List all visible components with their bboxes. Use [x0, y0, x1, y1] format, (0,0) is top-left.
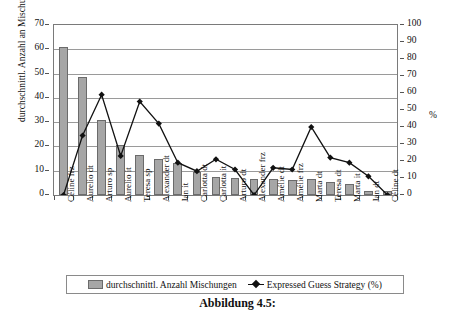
y-tick-left-70: 70	[15, 19, 49, 29]
x-label-4: Teresa sp	[143, 168, 152, 202]
figure-caption: Abbildung 4.5:	[0, 296, 475, 311]
line-marker-3	[118, 153, 124, 159]
figure-container: durchschnittl. Anzahl an Mischungen 0102…	[0, 0, 475, 315]
legend-item-line: Expressed Guess Strategy (%)	[248, 280, 382, 290]
tick-mark	[400, 41, 404, 42]
x-label-5: Alexander dt	[162, 155, 171, 202]
tick-mark	[45, 73, 49, 74]
y-tick-right-40: 40	[400, 121, 434, 131]
line-marker-1	[79, 132, 85, 138]
y-tick-left-20: 20	[15, 140, 49, 150]
tick-mark	[400, 126, 404, 127]
x-label-9: Arturo dt	[239, 169, 248, 202]
tick-mark	[400, 177, 404, 178]
x-label-17: Céline dt	[391, 169, 400, 202]
y-tick-right-10: 10	[400, 172, 434, 182]
y-axis-left: 010203040506070	[15, 24, 49, 196]
tick-mark	[400, 92, 404, 93]
y-tick-right-20: 20	[400, 155, 434, 165]
y-tick-left-40: 40	[15, 92, 49, 102]
tick-mark	[400, 143, 404, 144]
x-label-6: Jan it	[181, 183, 190, 202]
tick-mark	[400, 75, 404, 76]
y-tick-left-60: 60	[15, 43, 49, 53]
x-label-0: Céline frz	[67, 166, 76, 202]
legend-label-line: Expressed Guess Strategy (%)	[267, 280, 382, 290]
tick-mark	[45, 97, 49, 98]
tick-mark	[45, 145, 49, 146]
tick-mark	[45, 170, 49, 171]
tick-mark	[45, 24, 49, 25]
y-tick-right-90: 90	[400, 36, 434, 46]
tick-mark	[400, 194, 404, 195]
line-marker-2	[99, 92, 105, 98]
y-tick-left-30: 30	[15, 116, 49, 126]
legend-item-bars: durchschnittl. Anzahl Mischungen	[88, 280, 237, 290]
x-label-14: Teresa dt	[334, 169, 343, 202]
tick-mark	[400, 58, 404, 59]
tick-mark	[45, 48, 49, 49]
y-tick-left-50: 50	[15, 68, 49, 78]
line-marker-6	[175, 160, 181, 166]
line-diamond-icon	[248, 280, 264, 289]
y-tick-left-10: 10	[15, 165, 49, 175]
tick-mark	[45, 121, 49, 122]
x-label-3: Aurelio it	[124, 167, 133, 202]
y-tick-right-80: 80	[400, 53, 434, 63]
tick-mark	[400, 24, 404, 25]
tick-mark	[400, 160, 404, 161]
x-label-1: Aurelio dt	[86, 165, 95, 202]
x-label-13: Marta dt	[315, 171, 324, 202]
y-tick-right-70: 70	[400, 70, 434, 80]
x-label-2: Arturo sp	[105, 168, 114, 202]
tick-mark	[45, 194, 49, 195]
x-axis-labels: Céline frzAurelio dtArturo spAurelio itT…	[54, 200, 397, 266]
line-marker-14	[327, 155, 333, 161]
chart-legend: durchschnittl. Anzahl Mischungen Express…	[66, 275, 404, 294]
x-label-7: Carlotta dt	[200, 164, 209, 202]
line-marker-8	[213, 156, 219, 162]
y-tick-right-100: 100	[400, 19, 434, 29]
x-label-8: Carlotta it	[219, 166, 228, 202]
x-label-15: Marta it	[353, 173, 362, 202]
y-tick-left-0: 0	[15, 189, 49, 199]
y-tick-right-30: 30	[400, 138, 434, 148]
tick-mark	[400, 109, 404, 110]
y-axis-label-right: %	[429, 110, 437, 120]
legend-label-bars: durchschnittl. Anzahl Mischungen	[106, 280, 237, 290]
line-marker-13	[308, 124, 314, 130]
bar-swatch-icon	[88, 280, 103, 289]
y-tick-right-60: 60	[400, 87, 434, 97]
x-label-11: Amélie dt	[277, 166, 286, 202]
x-label-16: Jan dt	[372, 181, 381, 202]
x-label-12: Amélie frz	[296, 163, 305, 202]
y-tick-right-0: 0	[400, 189, 434, 199]
x-label-10: Alexander frz	[258, 152, 267, 202]
